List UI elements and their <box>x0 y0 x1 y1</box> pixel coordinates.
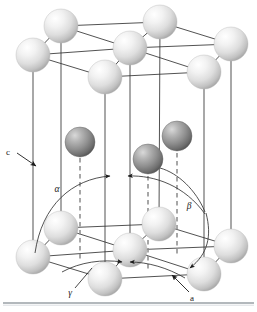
gamma-angle-label: γ <box>68 288 72 298</box>
c-axis-label: c <box>6 147 10 157</box>
atom-mid-left <box>65 127 95 157</box>
atom-top-front-right <box>187 55 221 89</box>
atom-top-back-left <box>44 9 78 43</box>
atom-bottom-front-left <box>88 262 122 296</box>
atom-top-front-left <box>88 60 122 94</box>
hcp-crystal-structure-figure: c a γ α β <box>0 0 257 312</box>
a-axis-leader-line <box>172 275 189 292</box>
atom-layer-bottom <box>16 207 248 296</box>
atom-layer-top <box>16 5 248 94</box>
atom-top-center <box>113 31 147 65</box>
atom-mid-front <box>133 144 163 174</box>
atom-bottom-back-right <box>142 207 176 241</box>
atom-bottom-front-right <box>187 257 221 291</box>
atom-mid-right <box>162 121 192 151</box>
atom-top-left <box>16 38 50 72</box>
atom-bottom-back-left <box>44 211 78 245</box>
atom-bottom-left <box>16 240 50 274</box>
atom-top-right <box>214 27 248 61</box>
a-axis-label: a <box>190 293 194 303</box>
crystal-structure-diagram: c a γ α β <box>0 0 257 312</box>
alpha-angle-label: α <box>55 184 61 194</box>
beta-angle-label: β <box>186 201 192 211</box>
atom-top-back-right <box>143 5 177 39</box>
atom-layer-middle <box>65 121 192 174</box>
atom-bottom-right <box>214 229 248 263</box>
